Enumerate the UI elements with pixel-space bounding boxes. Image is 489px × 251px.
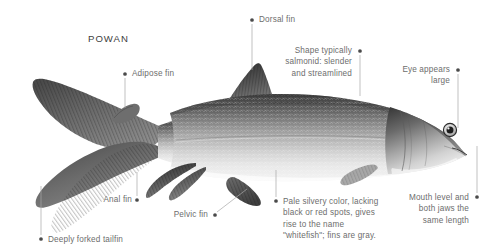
callout-eye-appears-large: Eye appears large (386, 64, 450, 87)
callout-dot-mouth-level-jaws (475, 195, 479, 199)
callout-shape-salmonid: Shape typically salmonid: slender and st… (264, 45, 352, 79)
callout-dot-anal-fin (135, 198, 139, 202)
callout-dot-deeply-forked-tailfin (39, 237, 43, 241)
callout-dot-dorsal-fin (250, 18, 254, 22)
callout-pelvic-fin: Pelvic fin (167, 209, 208, 220)
callout-dot-pelvic-fin (213, 213, 217, 217)
callout-deeply-forked-tailfin: Deeply forked tailfin (48, 234, 123, 245)
callout-dot-adipose-fin (123, 72, 127, 76)
callout-pale-silvery-color: Pale silvery color, lacking black or red… (283, 196, 413, 241)
callout-adipose-fin: Adipose fin (132, 68, 174, 79)
callout-anal-fin: Anal fin (96, 194, 132, 205)
callout-dorsal-fin: Dorsal fin (259, 14, 295, 25)
callout-dot-pale-silvery-color (274, 199, 278, 203)
callout-dot-shape-salmonid (358, 49, 362, 53)
leader-line-pelvic-fin (217, 189, 247, 212)
callout-dot-eye-appears-large (456, 68, 460, 72)
diagram-canvas: POWAN Adipose finDorsal finShape typical… (0, 0, 489, 251)
page-title: POWAN (88, 33, 129, 44)
